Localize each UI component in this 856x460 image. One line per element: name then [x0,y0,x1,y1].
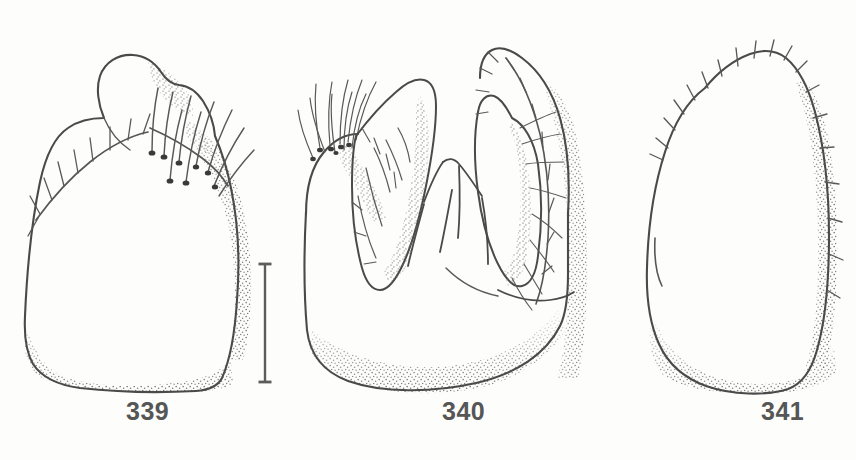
figure-340-paramere-right-shade [504,122,531,286]
figure-339-shading-dorsal [148,62,213,153]
illustration-plate: 339 340 341 [0,0,856,460]
figure-340-ventral-arm [498,290,574,301]
figure-339-shading-bottom [24,330,233,393]
figure-341-outline [647,51,829,394]
figure-340-ventral-arm-lower [446,268,498,296]
figure-340-left-shoulder-shade [340,142,386,222]
figure-339 [24,55,254,393]
figure-341-shading-bottom [650,320,837,394]
figure-340 [298,48,587,393]
figure-340-paramere-right [475,96,541,287]
figure-340-paramere-left-shade [384,96,429,286]
figure-label-341: 341 [761,399,804,424]
figure-label-340: 340 [442,399,485,424]
figure-339-shading-right [196,134,251,381]
plate-drawing [0,0,856,460]
figure-341-fold-line [655,238,662,286]
figure-339-setae-long [149,88,254,196]
scale-bar [259,263,272,383]
figure-label-339: 339 [126,399,169,424]
figure-340-setae-tuft-left [298,80,376,158]
figure-339-setae-anterior [28,114,150,236]
figure-341 [647,40,843,394]
figure-339-fold-line [104,118,130,150]
figure-339-outline [25,55,239,392]
figure-341-setae-marginal [650,40,843,298]
